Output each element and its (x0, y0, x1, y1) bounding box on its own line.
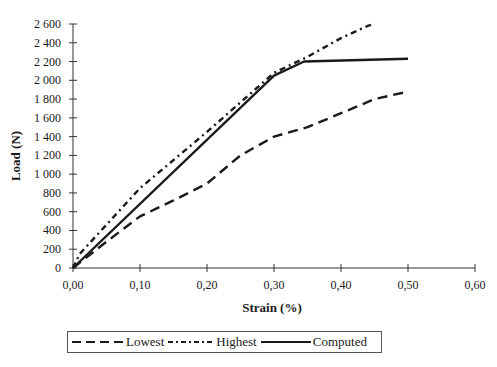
legend-label-computed: Computed (313, 334, 367, 350)
y-tick-label: 2 200 (34, 55, 61, 69)
y-tick-label: 1 000 (34, 167, 61, 181)
x-tick-label: 0,60 (465, 278, 486, 292)
y-tick-label: 1 600 (34, 111, 61, 125)
series-lowest (73, 92, 408, 268)
y-tick-label: 2 400 (34, 36, 61, 50)
x-tick-label: 0,20 (197, 278, 218, 292)
x-tick-label: 0,00 (63, 278, 84, 292)
y-tick-label: 0 (55, 261, 61, 275)
x-tick-label: 0,40 (331, 278, 352, 292)
y-tick-label: 2 000 (34, 73, 61, 87)
x-tick-label: 0,10 (130, 278, 151, 292)
y-tick-label: 2 600 (34, 17, 61, 31)
legend-item-computed: Computed (257, 334, 367, 350)
y-tick-label: 1 800 (34, 92, 61, 106)
legend-item-lowest: Lowest (68, 334, 164, 350)
dash-dot-line-icon (164, 337, 216, 347)
series-computed (73, 59, 408, 268)
solid-line-icon (257, 337, 313, 347)
y-tick-label: 600 (43, 205, 61, 219)
y-tick-label: 200 (43, 242, 61, 256)
x-axis-title: Strain (%) (242, 300, 302, 315)
y-axis-title: Load (N) (8, 131, 23, 181)
load-strain-chart: 0,000,100,200,300,400,500,60020040060080… (0, 0, 497, 330)
legend-label-lowest: Lowest (126, 334, 164, 350)
chart-legend: Lowest Highest Computed (67, 331, 382, 353)
x-tick-label: 0,50 (398, 278, 419, 292)
legend-label-highest: Highest (216, 334, 256, 350)
y-tick-label: 1 400 (34, 130, 61, 144)
dashed-line-icon (68, 337, 126, 347)
y-tick-label: 1 200 (34, 148, 61, 162)
y-tick-label: 800 (43, 186, 61, 200)
y-tick-label: 400 (43, 223, 61, 237)
x-tick-label: 0,30 (264, 278, 285, 292)
legend-item-highest: Highest (164, 334, 256, 350)
